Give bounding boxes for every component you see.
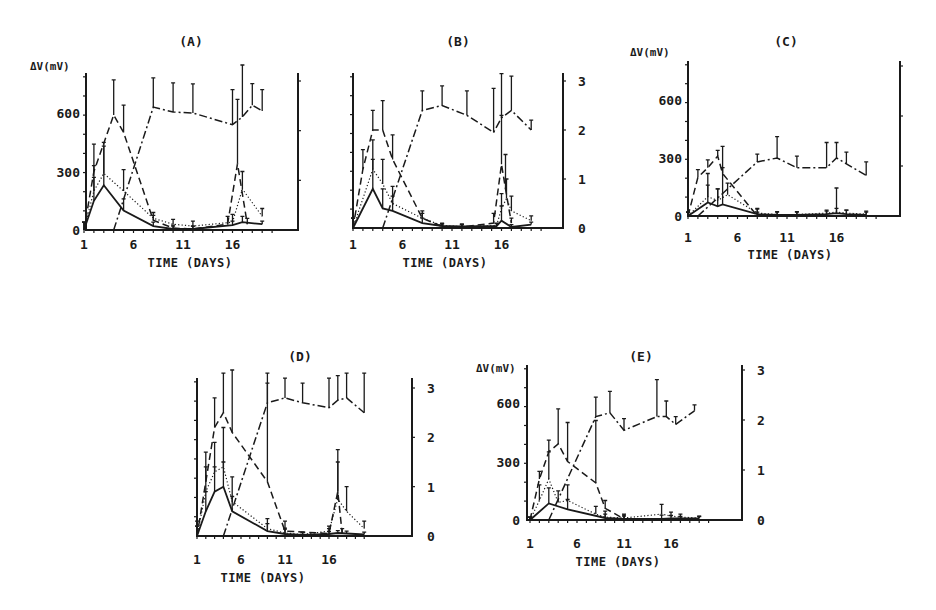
right-y-tick-label: 2: [578, 123, 586, 138]
panel-title: (A): [179, 34, 202, 49]
error-bar: [122, 170, 126, 191]
y-axis-label: ΔV(mV): [476, 362, 516, 375]
error-bar: [151, 215, 155, 220]
error-bar: [240, 65, 244, 117]
error-bar: [221, 373, 225, 413]
error-bar: [371, 110, 375, 130]
error-bar: [231, 90, 235, 125]
x-tick-label: 6: [399, 237, 407, 252]
series-dash-dot: [223, 398, 364, 536]
error-bar: [250, 84, 254, 106]
y-tick-label: 0: [72, 223, 80, 238]
right-y-tick-label: 3: [578, 74, 586, 89]
panel-title: (D): [288, 349, 311, 364]
error-bar: [221, 428, 225, 467]
error-bar: [492, 88, 496, 132]
error-bar: [260, 209, 264, 217]
x-tick-label: 1: [684, 230, 692, 245]
error-bar: [230, 477, 234, 502]
axes-frame: [197, 378, 412, 536]
error-bar: [240, 172, 244, 190]
x-axis-label: TIME (DAYS): [403, 256, 488, 270]
series-dashed: [197, 413, 342, 536]
error-bar: [112, 80, 116, 115]
error-bar: [509, 218, 513, 223]
error-bar: [191, 84, 195, 113]
x-tick-label: 11: [175, 237, 191, 252]
right-y-tick-label: 0: [757, 513, 765, 528]
error-bar: [265, 373, 269, 403]
error-bar: [844, 152, 848, 164]
x-tick-label: 11: [779, 230, 795, 245]
x-tick-label: 16: [663, 536, 679, 551]
error-bar: [500, 74, 504, 118]
x-axis-label: TIME (DAYS): [148, 256, 233, 270]
error-bar: [795, 156, 799, 168]
error-bar: [825, 143, 829, 168]
right-y-tick-label: 1: [757, 463, 765, 478]
panel-b: (B) TIME (DAYS) 0123161116: [349, 34, 586, 270]
x-tick-label: 11: [444, 237, 460, 252]
right-y-tick-label: 0: [578, 221, 586, 236]
x-tick-label: 1: [80, 237, 88, 252]
x-tick-label: 1: [526, 536, 534, 551]
x-axis-label: TIME (DAYS): [748, 248, 833, 262]
error-bar: [594, 397, 598, 417]
right-y-tick-label: 1: [427, 480, 435, 495]
error-bar: [716, 150, 720, 156]
series-dashed: [353, 130, 511, 228]
error-bar: [603, 501, 607, 509]
x-tick-label: 11: [277, 552, 293, 567]
error-bar: [283, 378, 287, 398]
y-tick-label: 600: [659, 93, 683, 108]
error-bar: [440, 86, 444, 106]
x-axis-label: TIME (DAYS): [221, 571, 306, 585]
error-bar: [556, 409, 560, 444]
figure-canvas: (A) ΔV(mV) TIME (DAYS) 0300600161116 (B)…: [0, 0, 936, 610]
series-solid: [353, 189, 531, 228]
error-bar: [240, 216, 244, 222]
right-y-tick-label: 3: [427, 381, 435, 396]
y-tick-label: 300: [497, 455, 521, 470]
series-dashed: [84, 115, 247, 230]
error-bar: [102, 142, 106, 173]
right-y-tick-label: 1: [578, 172, 586, 187]
x-axis-label: TIME (DAYS): [576, 555, 661, 569]
error-bar: [844, 210, 848, 213]
y-tick-label: 0: [512, 513, 520, 528]
panel-e: (E) ΔV(mV) TIME (DAYS) 03006000123161116: [476, 349, 765, 569]
error-bar: [381, 159, 385, 184]
error-bar: [566, 485, 570, 501]
error-bar: [361, 150, 365, 170]
x-tick-label: 1: [193, 552, 201, 567]
error-bar: [755, 154, 759, 162]
error-bar: [864, 162, 868, 176]
panel-c: (C) ΔV(mV) TIME (DAYS) 0300600161116: [630, 34, 903, 262]
error-bar: [381, 101, 385, 130]
x-tick-label: 16: [494, 237, 510, 252]
panel-a: (A) ΔV(mV) TIME (DAYS) 0300600161116: [30, 34, 301, 270]
panel-title: (B): [446, 34, 469, 49]
axes-frame: [527, 365, 742, 520]
right-y-tick-label: 2: [427, 430, 435, 445]
axes-frame: [688, 61, 900, 216]
x-tick-label: 1: [349, 237, 357, 252]
x-tick-label: 6: [573, 536, 581, 551]
error-bar: [655, 380, 659, 417]
error-bar: [547, 488, 551, 504]
error-bar: [151, 78, 155, 107]
error-bar: [230, 370, 234, 432]
error-bar: [835, 143, 839, 159]
panel-title: (E): [629, 349, 652, 364]
error-bar: [566, 423, 570, 462]
error-bar: [191, 221, 195, 226]
axes-frame: [353, 73, 563, 228]
error-bar: [345, 373, 349, 398]
error-bar: [362, 373, 366, 413]
error-bar: [301, 383, 305, 403]
x-tick-label: 11: [616, 536, 632, 551]
panel-title: (C): [774, 34, 797, 49]
x-tick-label: 6: [130, 237, 138, 252]
error-bar: [420, 91, 424, 111]
error-bar: [260, 90, 264, 111]
